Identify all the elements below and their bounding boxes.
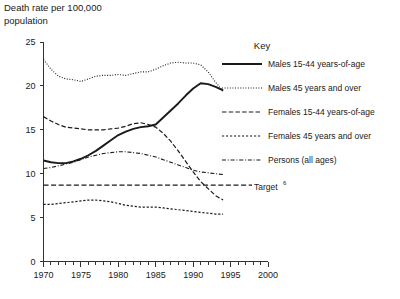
y-tick-label: 20 bbox=[25, 81, 35, 91]
y-tick-label: 10 bbox=[25, 169, 35, 179]
mortality-line-chart: Death rate per 100,000 population 051015… bbox=[0, 0, 400, 299]
data-series-group bbox=[44, 60, 224, 215]
y-tick-label: 15 bbox=[25, 125, 35, 135]
y-tick-label: 25 bbox=[25, 37, 35, 47]
legend-item-label: Females 45 years and over bbox=[268, 131, 371, 141]
axes bbox=[44, 42, 269, 262]
series-line bbox=[44, 83, 224, 163]
x-axis-ticks: 1970197519801985199019952000 bbox=[33, 262, 278, 280]
series-line bbox=[44, 200, 224, 214]
legend-items: Males 15-44 years-of-ageMales 45 years a… bbox=[222, 59, 375, 165]
y-axis-ticks: 0510152025 bbox=[25, 37, 43, 267]
y-tick-label: 0 bbox=[30, 257, 35, 267]
legend-item-label: Persons (all ages) bbox=[268, 155, 337, 165]
series-line bbox=[44, 152, 224, 175]
x-tick-label: 1975 bbox=[71, 270, 91, 280]
x-tick-label: 2000 bbox=[258, 270, 278, 280]
x-tick-label: 1990 bbox=[183, 270, 203, 280]
x-tick-label: 1970 bbox=[33, 270, 53, 280]
legend: Key Males 15-44 years-of-ageMales 45 yea… bbox=[222, 40, 375, 165]
legend-title: Key bbox=[254, 40, 271, 51]
target-label-superscript: 6 bbox=[283, 180, 287, 186]
x-tick-label: 1980 bbox=[108, 270, 128, 280]
legend-item-label: Males 15-44 years-of-age bbox=[268, 59, 365, 69]
x-tick-label: 1985 bbox=[146, 270, 166, 280]
target-label: Target bbox=[254, 182, 278, 192]
x-tick-label: 1995 bbox=[221, 270, 241, 280]
y-tick-label: 5 bbox=[30, 213, 35, 223]
legend-item-label: Males 45 years and over bbox=[268, 83, 361, 93]
y-axis-title-line2: population bbox=[4, 15, 48, 26]
y-axis-title-line1: Death rate per 100,000 bbox=[4, 2, 102, 13]
legend-item-label: Females 15-44 years-of-age bbox=[268, 107, 375, 117]
